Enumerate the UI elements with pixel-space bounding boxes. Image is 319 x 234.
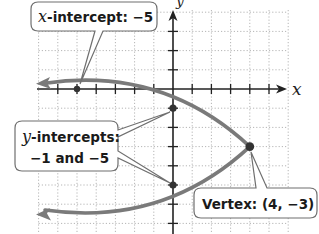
x-intercept-text: -intercept: −5 — [47, 9, 153, 25]
y-intercept-point-1 — [169, 105, 176, 112]
y-intercepts-callout: y-intercepts: −1 and −5 — [15, 112, 170, 183]
svg-text:y-intercepts:: y-intercepts: — [21, 127, 120, 146]
x-axis-label: x — [292, 79, 302, 99]
x-intercept-callout: x-intercept: −5 — [31, 2, 157, 84]
vertex-point — [245, 142, 254, 151]
y-intercepts-line2: −1 and −5 — [30, 150, 109, 166]
parabola-graph: x y x-intercept: −5 y-intercepts: −1 and… — [0, 0, 319, 234]
y-intercept-point-5 — [169, 181, 176, 188]
svg-text:x-intercept: −5: x-intercept: −5 — [38, 7, 153, 26]
x-intercept-point — [74, 86, 80, 92]
y-axis-label: y — [175, 0, 185, 9]
x-var: x — [38, 7, 47, 26]
y-intercepts-line1: -intercepts: — [31, 129, 120, 145]
vertex-text: Vertex: (4, −3) — [202, 196, 314, 212]
